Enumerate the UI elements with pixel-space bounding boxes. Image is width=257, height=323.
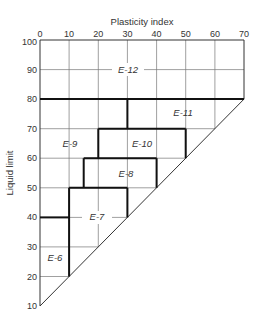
y-tick: 80 [27, 94, 37, 104]
zone-label-e12: E-12 [118, 64, 139, 75]
y-tick: 100 [22, 37, 37, 47]
y-axis-ticks: 100 90 80 70 60 50 40 30 20 10 [22, 37, 37, 311]
y-tick: 60 [27, 153, 37, 163]
x-tick: 50 [181, 29, 191, 39]
zone-label-e10: E-10 [132, 138, 153, 149]
x-tick: 0 [37, 29, 42, 39]
classification-chart: 0 10 20 30 40 50 60 70 Plasticity index … [0, 0, 257, 323]
diagonal-boundary [40, 99, 244, 306]
chart-frame [40, 40, 244, 306]
x-tick: 30 [122, 29, 132, 39]
y-tick: 40 [27, 212, 37, 222]
x-tick: 20 [93, 29, 103, 39]
zone-label-e7: E-7 [90, 211, 106, 222]
zone-label-e9: E-9 [63, 138, 79, 149]
zone-label-e6: E-6 [48, 252, 64, 263]
x-tick: 60 [210, 29, 220, 39]
y-tick: 90 [27, 65, 37, 75]
zone-label-e8: E-8 [119, 168, 135, 179]
y-tick: 50 [27, 183, 37, 193]
y-tick: 70 [27, 124, 37, 134]
y-tick: 10 [27, 301, 37, 311]
y-tick: 20 [27, 272, 37, 282]
y-axis-title: Liquid limit [4, 150, 15, 195]
x-axis-title: Plasticity index [111, 16, 174, 27]
x-tick: 70 [239, 29, 249, 39]
x-tick: 10 [64, 29, 74, 39]
zone-label-e11: E-11 [173, 107, 192, 118]
x-tick: 40 [152, 29, 162, 39]
x-axis-ticks: 0 10 20 30 40 50 60 70 [37, 29, 249, 39]
y-tick: 30 [27, 242, 37, 252]
